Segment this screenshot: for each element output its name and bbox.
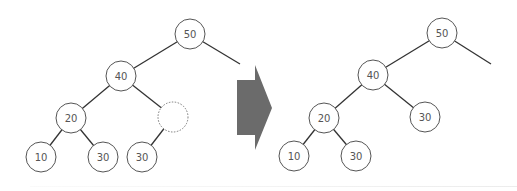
bottom-divider xyxy=(30,186,517,187)
tree-node: 20 xyxy=(56,103,86,133)
node-label: 40 xyxy=(367,70,380,81)
node-label: 50 xyxy=(436,28,449,39)
tree-node: 50 xyxy=(427,18,457,48)
node-label: 10 xyxy=(288,151,301,162)
tree-node: 30 xyxy=(127,142,157,172)
tree-node: 30 xyxy=(341,141,371,171)
node-label: 10 xyxy=(35,152,48,163)
tree-node: 30 xyxy=(410,102,440,132)
node-label: 40 xyxy=(115,71,128,82)
tree-node: 40 xyxy=(358,60,388,90)
node-label: 20 xyxy=(318,113,331,124)
tree-node: 50 xyxy=(175,19,205,49)
transform-arrow-icon xyxy=(237,65,272,150)
tree-node-empty xyxy=(158,102,188,132)
tree-node: 10 xyxy=(279,141,309,171)
node-label: 30 xyxy=(419,112,432,123)
tree-diagram: 504020103030504020301030 xyxy=(0,0,517,191)
node-circle xyxy=(158,102,188,132)
node-label: 50 xyxy=(184,29,197,40)
tree-node: 40 xyxy=(106,61,136,91)
tree-node: 10 xyxy=(26,142,56,172)
node-label: 30 xyxy=(350,151,363,162)
tree-node: 30 xyxy=(88,142,118,172)
tree-node: 20 xyxy=(309,103,339,133)
node-label: 30 xyxy=(136,152,149,163)
node-label: 30 xyxy=(97,152,110,163)
node-label: 20 xyxy=(65,113,78,124)
